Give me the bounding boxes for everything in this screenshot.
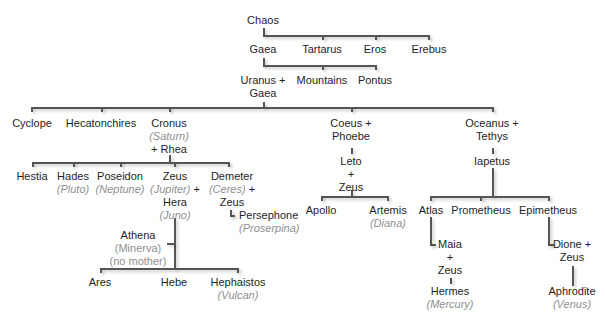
node-mountains: Mountains: [297, 74, 348, 87]
node-maia-zeus: Maia + Zeus: [438, 238, 462, 277]
connector: [228, 162, 230, 167]
spouse: Zeus: [209, 196, 255, 209]
connector: [492, 168, 494, 197]
connector: [263, 65, 375, 67]
node-leto-zeus: Leto + Zeus: [339, 155, 363, 194]
name-line: Dione +: [553, 238, 591, 251]
node-gaea: Gaea: [250, 43, 277, 56]
node-prometheus: Prometheus: [451, 204, 510, 217]
connector: [548, 217, 550, 245]
plus: +: [246, 183, 255, 195]
node-hermes: Hermes (Mercury): [426, 285, 473, 311]
connector: [375, 35, 377, 40]
connector: [321, 196, 388, 198]
connector: [548, 196, 550, 201]
connector: [351, 148, 353, 154]
name: Persephone: [239, 209, 300, 222]
name-line: +: [438, 251, 462, 264]
roman-name: (Diana): [369, 217, 406, 230]
connector: [387, 196, 389, 201]
connector: [100, 268, 238, 270]
node-cyclope: Cyclope: [12, 117, 52, 130]
connector: [169, 107, 171, 112]
node-hestia: Hestia: [16, 170, 47, 183]
connector: [321, 196, 323, 201]
node-atlas: Atlas: [419, 204, 443, 217]
node-dione-zeus: Dione + Zeus: [553, 238, 591, 264]
node-epimetheus: Epimetheus: [519, 204, 577, 217]
roman-name: (Neptune): [96, 183, 145, 196]
roman-name: (Vulcan): [210, 289, 265, 302]
name: Aphrodite: [548, 285, 595, 298]
roman-name: (Jupiter): [150, 183, 190, 195]
name: Athena: [110, 229, 167, 242]
name-line: +: [339, 168, 363, 181]
name: Demeter: [209, 170, 255, 183]
name-line: Gaea: [241, 87, 286, 100]
name-line: Leto: [339, 155, 363, 168]
name: Cronus: [149, 117, 189, 130]
connector: [430, 244, 436, 246]
spouse-roman-name: (Juno): [150, 209, 200, 222]
name-line: Maia: [438, 238, 462, 251]
name-line: Tethys: [465, 130, 519, 143]
connector: [351, 107, 353, 112]
spouse: + Rhea: [149, 143, 189, 156]
connector: [430, 196, 432, 201]
connector: [480, 196, 482, 201]
connector: [450, 278, 452, 284]
name: Artemis: [369, 204, 406, 217]
node-cronus: Cronus (Saturn) + Rhea: [149, 117, 189, 156]
node-tartarus: Tartarus: [302, 43, 342, 56]
name-line: Phoebe: [330, 130, 371, 143]
node-eros: Eros: [364, 43, 387, 56]
connector: [167, 243, 174, 245]
name-line: Zeus: [339, 181, 363, 194]
name: Poseidon: [96, 170, 145, 183]
roman-name: (Ceres): [209, 183, 246, 195]
name: Hermes: [426, 285, 473, 298]
connector: [375, 65, 377, 70]
name-line: Coeus +: [330, 117, 371, 130]
node-erebus: Erebus: [412, 43, 447, 56]
node-coeus-phoebe: Coeus + Phoebe: [330, 117, 371, 143]
node-chaos: Chaos: [247, 14, 279, 27]
node-artemis: Artemis (Diana): [369, 204, 406, 230]
node-hebe: Hebe: [161, 276, 187, 289]
connector: [32, 162, 229, 164]
roman-name: (Proserpina): [239, 222, 300, 235]
connector: [32, 162, 34, 167]
node-apollo: Apollo: [306, 204, 337, 217]
roman-name: (Venus): [548, 298, 595, 311]
node-aphrodite: Aphrodite (Venus): [548, 285, 595, 311]
node-hades: Hades (Pluto): [57, 170, 89, 196]
connector: [174, 162, 176, 167]
connector: [100, 268, 102, 273]
connector: [263, 35, 429, 37]
plus: +: [190, 183, 199, 195]
name-line: Uranus +: [241, 74, 286, 87]
connector: [230, 215, 235, 217]
roman-name: (Minerva): [110, 242, 167, 255]
name-line: Zeus: [438, 264, 462, 277]
connector: [428, 35, 430, 40]
name-line: Zeus: [553, 251, 591, 264]
connector: [322, 35, 324, 40]
connector: [430, 196, 549, 198]
node-pontus: Pontus: [358, 74, 392, 87]
node-athena: Athena (Minerva) (no mother): [110, 229, 167, 268]
connector: [322, 65, 324, 70]
roman-name: (Mercury): [426, 298, 473, 311]
connector: [430, 217, 432, 245]
node-ares: Ares: [89, 276, 112, 289]
node-hecatonchires: Hecatonchires: [66, 117, 136, 130]
connector: [120, 162, 122, 167]
node-poseidon: Poseidon (Neptune): [96, 170, 145, 196]
connector: [174, 218, 176, 269]
node-iapetus: Iapetus: [474, 155, 510, 168]
node-demeter-zeus: Demeter (Ceres) + Zeus: [209, 170, 255, 209]
name: Zeus: [150, 170, 200, 183]
connector: [572, 266, 574, 286]
node-uranus-gaea: Uranus + Gaea: [241, 74, 286, 100]
name-line: Oceanus +: [465, 117, 519, 130]
